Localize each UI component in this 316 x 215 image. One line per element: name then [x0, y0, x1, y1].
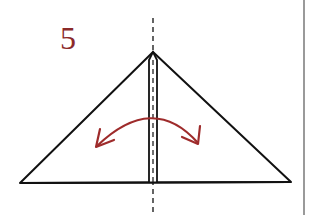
page-border-line: [303, 0, 305, 215]
diagram-canvas: [0, 0, 316, 215]
triangle-base: [20, 182, 291, 183]
step-number: 5: [60, 22, 76, 54]
origami-diagram: 5: [0, 0, 316, 215]
